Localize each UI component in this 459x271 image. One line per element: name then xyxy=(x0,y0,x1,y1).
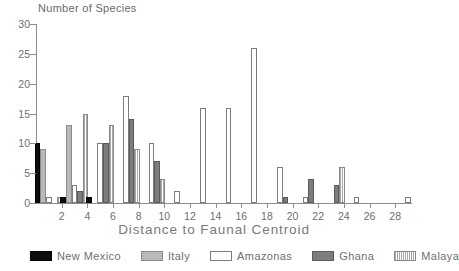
legend-item-new-mexico[interactable]: New Mexico xyxy=(30,250,121,262)
y-axis-tick xyxy=(30,173,36,174)
y-axis-tick xyxy=(30,24,36,25)
x-axis-line xyxy=(36,203,412,204)
x-axis-tick xyxy=(139,203,140,208)
x-axis-tick-label: 16 xyxy=(231,210,251,222)
legend-label: Italy xyxy=(168,250,190,262)
legend-swatch-icon xyxy=(141,251,163,261)
x-axis-tick-label: 6 xyxy=(103,210,123,222)
legend-label: Ghana xyxy=(339,250,374,262)
chart-legend: New MexicoItalyAmazonasGhanaMalaya xyxy=(30,248,428,264)
bar-amazonas-15 xyxy=(226,108,232,203)
legend-swatch-icon xyxy=(30,251,52,261)
x-axis-tick-label: 18 xyxy=(257,210,277,222)
bar-malaya-3 xyxy=(83,114,89,204)
x-axis-tick xyxy=(216,203,217,208)
x-axis-tick xyxy=(318,203,319,208)
x-axis-title: Distance to Faunal Centroid xyxy=(0,222,428,237)
y-axis-tick-label: 20 xyxy=(6,79,30,89)
y-axis-tick xyxy=(30,114,36,115)
x-axis-tick-label: 24 xyxy=(334,210,354,222)
x-axis-tick-label: 26 xyxy=(360,210,380,222)
x-axis-tick-label: 28 xyxy=(385,210,405,222)
bar-amazonas-13 xyxy=(200,108,206,203)
x-axis-tick xyxy=(62,203,63,208)
legend-label: New Mexico xyxy=(57,250,121,262)
x-axis-tick xyxy=(293,203,294,208)
bar-amazonas-17 xyxy=(251,48,257,203)
bar-ghana-19 xyxy=(283,197,289,203)
y-axis-tick-label: 15 xyxy=(6,109,30,119)
x-axis-tick xyxy=(87,203,88,208)
bar-amazonas-1 xyxy=(46,197,52,203)
y-axis-tick xyxy=(30,203,36,204)
y-axis-tick-label: 30 xyxy=(6,19,30,29)
bar-malaya-23 xyxy=(339,167,345,203)
legend-item-amazonas[interactable]: Amazonas xyxy=(210,250,292,262)
bar-amazonas-11 xyxy=(174,191,180,203)
y-axis-tick-label: 0 xyxy=(6,198,30,208)
y-axis-tick xyxy=(30,54,36,55)
bar-amazonas-25 xyxy=(354,197,360,203)
x-axis-tick xyxy=(395,203,396,208)
y-axis-tick-label: 25 xyxy=(6,49,30,59)
x-axis-tick-label: 22 xyxy=(308,210,328,222)
x-axis-tick-label: 14 xyxy=(206,210,226,222)
x-axis-tick-label: 4 xyxy=(77,210,97,222)
x-axis-tick xyxy=(164,203,165,208)
bar-italy-1 xyxy=(40,149,46,203)
legend-swatch-icon xyxy=(210,251,232,261)
bar-malaya-9 xyxy=(160,179,166,203)
plot-area xyxy=(36,24,408,203)
x-axis-tick-label: 8 xyxy=(129,210,149,222)
x-axis-tick xyxy=(113,203,114,208)
legend-swatch-icon xyxy=(394,251,416,261)
legend-item-ghana[interactable]: Ghana xyxy=(312,250,374,262)
y-axis-tick xyxy=(30,143,36,144)
bar-amazonas-29 xyxy=(405,197,411,203)
x-axis-tick-label: 2 xyxy=(52,210,72,222)
x-axis-tick-label: 10 xyxy=(154,210,174,222)
y-axis-labels: 051015202530 xyxy=(0,24,30,203)
x-axis-tick xyxy=(241,203,242,208)
bar-malaya-5 xyxy=(109,125,115,203)
x-axis-tick-label: 12 xyxy=(180,210,200,222)
legend-item-italy[interactable]: Italy xyxy=(141,250,190,262)
y-axis-title: Number of Species xyxy=(38,2,137,14)
x-axis-tick-label: 20 xyxy=(283,210,303,222)
bar-malaya-7 xyxy=(134,149,140,203)
y-axis-tick-label: 10 xyxy=(6,138,30,148)
legend-label: Amazonas xyxy=(237,250,292,262)
bar-ghana-21 xyxy=(308,179,314,203)
legend-item-malaya[interactable]: Malaya xyxy=(394,250,459,262)
legend-label: Malaya xyxy=(421,250,459,262)
x-axis-tick xyxy=(370,203,371,208)
x-axis-tick xyxy=(267,203,268,208)
x-axis-tick xyxy=(190,203,191,208)
legend-swatch-icon xyxy=(312,251,334,261)
y-axis-tick xyxy=(30,84,36,85)
y-axis-tick-label: 5 xyxy=(6,168,30,178)
x-axis-tick xyxy=(344,203,345,208)
